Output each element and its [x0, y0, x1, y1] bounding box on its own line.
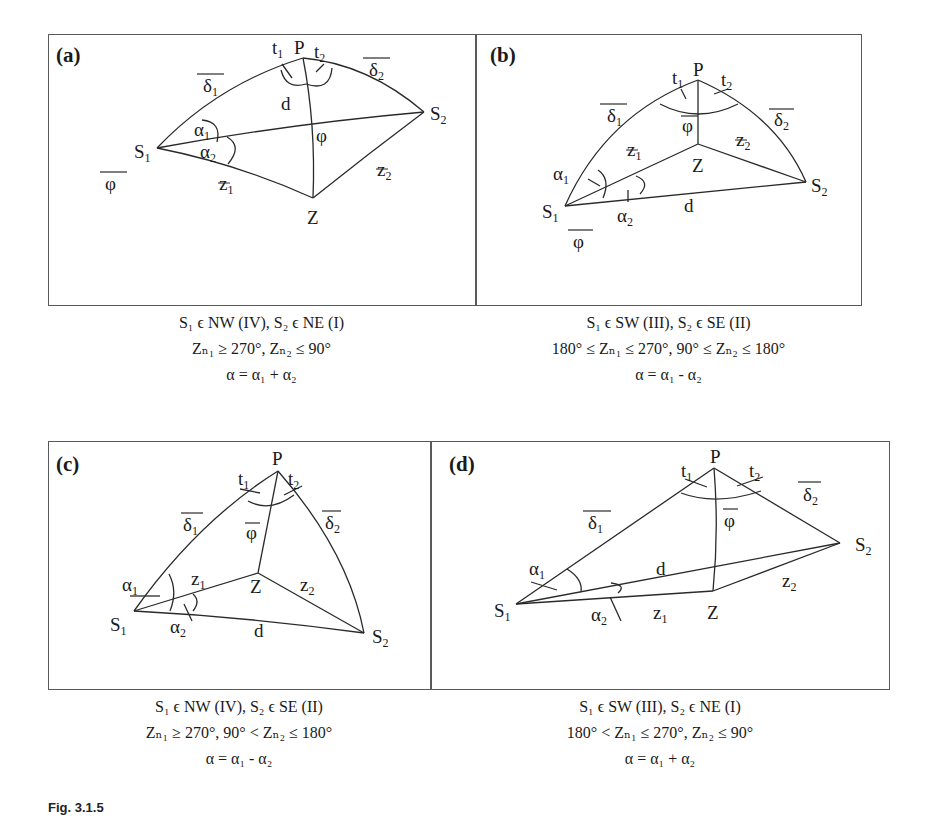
svg-text:δ2: δ2	[325, 512, 340, 536]
label-phi-bar-lower: φ	[573, 231, 584, 252]
svg-text:α1: α1	[529, 558, 545, 582]
svg-text:t2: t2	[721, 69, 732, 93]
arc-z2	[713, 543, 840, 591]
svg-text:δ2: δ2	[774, 109, 789, 133]
panel-a-caption: S₁ ϵ NW (IV), S₂ ϵ NE (I) Zₙ₁ ≥ 270°, Zₙ…	[48, 310, 475, 388]
svg-text:t1: t1	[672, 67, 683, 91]
svg-text:α2: α2	[591, 604, 607, 628]
panel-b-diagram: (b) P t1 t2 δ1 δ2 φ z1 z2 Z S2 α1 S1 α2 …	[476, 34, 862, 306]
svg-text:S2: S2	[372, 626, 389, 650]
caption-quadrants: S₁ ϵ NW (IV), S₂ ϵ SE (II)	[48, 694, 430, 720]
caption-alpha-formula: α = α₁ - α₂	[475, 362, 862, 388]
svg-text:t1: t1	[681, 460, 692, 484]
svg-text:δ1: δ1	[203, 75, 218, 99]
caption-azimuth-range: 180° < Zₙ₁ ≤ 270°, Zₙ₂ ≤ 90°	[430, 720, 890, 746]
panel-d-diagram: (d) P t1 t2 δ2 δ1 φ S2 d α1 z2 S1 α2 z1 …	[431, 441, 890, 690]
svg-text:z2: z2	[782, 570, 796, 594]
arc-delta2	[714, 468, 840, 543]
svg-text:z1: z1	[219, 173, 233, 197]
arc-d	[516, 543, 840, 604]
svg-text:t2: t2	[749, 460, 760, 484]
caption-quadrants: S₁ ϵ SW (III), S₂ ϵ SE (II)	[475, 310, 862, 336]
label-phi-bar: φ	[246, 522, 257, 543]
panel-a-label: (a)	[56, 43, 81, 67]
caption-alpha-formula: α = α₁ + α₂	[430, 746, 890, 772]
label-phi-bar: φ	[105, 173, 116, 194]
svg-text:α2: α2	[170, 616, 186, 640]
point-Z: Z	[707, 602, 719, 623]
figure-label: Fig. 3.1.5	[48, 800, 104, 815]
svg-text:δ2: δ2	[803, 484, 818, 508]
point-P: P	[693, 59, 704, 80]
panel-b-caption: S₁ ϵ SW (III), S₂ ϵ SE (II) 180° ≤ Zₙ₁ ≤…	[475, 310, 862, 388]
panel-c-diagram: (c) P t1 t2 δ1 δ2 φ α1 z1 Z z2 S1 α2 d S…	[48, 441, 430, 690]
svg-text:S2: S2	[811, 175, 828, 199]
arc-phi	[258, 471, 278, 573]
caption-alpha-formula: α = α₁ + α₂	[48, 362, 475, 388]
caption-azimuth-range: Zₙ₁ ≥ 270°, 90° < Zₙ₂ ≤ 180°	[48, 720, 430, 746]
panel-a-diagram: (a) P t1 t2 δ1 δ2 d φ S2 S1 α1 α2 φ z1 z…	[48, 34, 475, 306]
svg-text:δ2: δ2	[369, 59, 384, 83]
arc-z1	[516, 591, 713, 604]
svg-text:z1: z1	[653, 602, 667, 626]
point-Z: Z	[692, 155, 704, 176]
svg-text:α1: α1	[122, 574, 138, 598]
arc-z2	[698, 144, 806, 182]
panel-d-label: (d)	[449, 452, 475, 476]
caption-azimuth-range: 180° ≤ Zₙ₁ ≤ 270°, 90° ≤ Zₙ₂ ≤ 180°	[475, 336, 862, 362]
panel-c-label: (c)	[56, 452, 79, 476]
caption-azimuth-range: Zₙ₁ ≥ 270°, Zₙ₂ ≤ 90°	[48, 336, 475, 362]
svg-text:α1: α1	[553, 163, 569, 187]
svg-text:δ1: δ1	[588, 512, 603, 536]
svg-text:α2: α2	[617, 205, 633, 229]
arc-z2	[313, 112, 424, 198]
svg-text:S1: S1	[542, 201, 559, 225]
label-phi-bar: φ	[724, 510, 735, 531]
svg-text:α2: α2	[200, 141, 216, 165]
label-phi-bar: φ	[682, 115, 693, 136]
svg-text:t2: t2	[288, 468, 299, 492]
point-Z: Z	[307, 207, 319, 228]
svg-text:t1: t1	[272, 37, 283, 61]
panel-b-label: (b)	[490, 43, 516, 67]
svg-text:S2: S2	[430, 103, 447, 127]
arc-d	[134, 611, 364, 633]
svg-text:α1: α1	[194, 119, 210, 143]
svg-text:S1: S1	[134, 141, 151, 165]
svg-text:S2: S2	[855, 534, 872, 558]
svg-text:z2: z2	[377, 159, 391, 183]
svg-text:t2: t2	[314, 41, 325, 65]
arc-phi	[303, 58, 314, 198]
svg-text:S1: S1	[494, 600, 511, 624]
panel-c-caption: S₁ ϵ NW (IV), S₂ ϵ SE (II) Zₙ₁ ≥ 270°, 9…	[48, 694, 430, 772]
caption-quadrants: S₁ ϵ NW (IV), S₂ ϵ NE (I)	[48, 310, 475, 336]
point-P: P	[294, 37, 305, 58]
caption-quadrants: S₁ ϵ SW (III), S₂ ϵ NE (I)	[430, 694, 890, 720]
label-d: d	[656, 558, 666, 579]
panel-d-caption: S₁ ϵ SW (III), S₂ ϵ NE (I) 180° < Zₙ₁ ≤ …	[430, 694, 890, 772]
point-P: P	[710, 446, 721, 467]
svg-text:t1: t1	[238, 468, 249, 492]
arc-z1	[157, 148, 313, 198]
svg-text:z1: z1	[191, 568, 205, 592]
point-Z: Z	[250, 576, 262, 597]
caption-alpha-formula: α = α₁ - α₂	[48, 746, 430, 772]
label-phi: φ	[316, 125, 327, 146]
arc-phi	[713, 468, 716, 591]
svg-text:S1: S1	[110, 614, 127, 638]
arc-delta2	[698, 80, 806, 182]
label-d: d	[684, 195, 694, 216]
svg-text:z1: z1	[627, 139, 641, 163]
svg-text:δ1: δ1	[183, 514, 198, 538]
svg-text:z2: z2	[300, 574, 314, 598]
point-P: P	[272, 448, 283, 469]
svg-text:δ1: δ1	[607, 105, 622, 129]
svg-text:z2: z2	[736, 129, 750, 153]
label-d: d	[281, 93, 291, 114]
label-d: d	[254, 620, 264, 641]
